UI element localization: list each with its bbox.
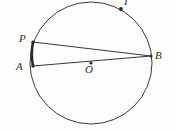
point-a-dot: [31, 64, 34, 67]
geometry-figure: P A B O I: [0, 0, 175, 132]
point-label-b: B: [155, 50, 162, 61]
point-label-p: P: [19, 33, 26, 44]
point-i-dot: [119, 7, 123, 11]
point-label-a: A: [16, 61, 23, 72]
highlighted-arc-p-a: [32, 42, 33, 66]
chord-p-b: [33, 42, 151, 56]
point-label-o: O: [85, 64, 93, 75]
point-p-dot: [31, 40, 34, 43]
point-b-dot: [149, 54, 152, 57]
point-label-i: I: [124, 0, 128, 7]
